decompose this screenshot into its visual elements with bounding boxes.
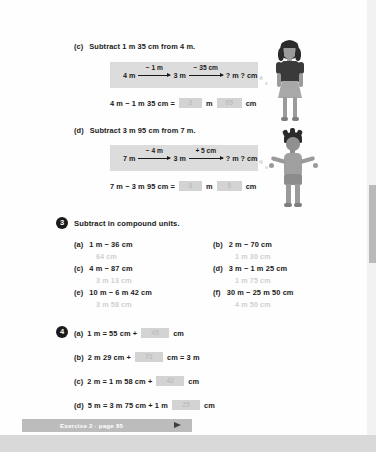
item-problem: 2 m − 70 cm: [229, 240, 272, 249]
item-letter: (c): [74, 264, 83, 273]
part-d-middle-value: 3 m: [173, 154, 185, 163]
section-3-item-d: (d) 3 m − 1 m 25 cm: [213, 264, 287, 273]
section-3-item-f: (f) 30 m − 25 m 50 cm: [213, 288, 294, 297]
page-edge-tab: [369, 185, 376, 263]
part-c-start-value: 4 m: [123, 71, 135, 80]
part-d-equation: 7 m − 3 m 95 cm = 3 m 5 cm: [110, 181, 257, 191]
part-d-answer-metres[interactable]: 3: [179, 181, 202, 191]
part-c-answer-cm[interactable]: 65: [217, 98, 242, 108]
section-4-answer-c[interactable]: 42: [156, 376, 184, 386]
section-3-item-b: (b) 2 m − 70 cm: [213, 240, 272, 249]
item-expression-after: cm: [188, 377, 199, 386]
item-problem: 4 m − 87 cm: [89, 264, 132, 273]
section-3-number: 3: [56, 217, 68, 229]
part-d-letter: (d): [74, 126, 84, 135]
part-d-answer-cm[interactable]: 5: [217, 181, 242, 191]
section-3-answer-b[interactable]: 1 m 30 cm: [235, 252, 271, 261]
item-expression-after: cm: [204, 401, 215, 410]
part-c-middle-value: 3 m: [173, 71, 185, 80]
section-4-number: 4: [56, 326, 68, 338]
item-letter: (a): [74, 240, 83, 249]
item-expression-before: 2 m 29 cm +: [88, 353, 131, 362]
item-problem: 10 m − 6 m 42 cm: [89, 288, 152, 297]
exercise-banner: Exercise 2 · page 85: [22, 419, 192, 432]
part-c-equation-prefix: 4 m − 1 m 35 cm =: [110, 99, 175, 108]
part-c-prompt: Subtract 1 m 35 cm from 4 m.: [89, 42, 195, 51]
item-expression-before: 5 m = 3 m 75 cm + 1 m: [88, 401, 168, 410]
part-d-equation-prefix: 7 m − 3 m 95 cm =: [110, 182, 175, 191]
item-letter: (f): [213, 288, 221, 297]
section-3-title: Subtract in compound units.: [74, 219, 180, 228]
item-problem: 30 m − 25 m 50 cm: [227, 288, 294, 297]
exercise-banner-label: Exercise 2 · page 85: [60, 422, 123, 429]
section-4-item-b: (b) 2 m 29 cm + 71 cm = 3 m: [74, 352, 200, 362]
part-c-unit-cm: cm: [246, 99, 257, 108]
page-bottom-strip: [0, 435, 376, 452]
section-4-item-d: (d) 5 m = 3 m 75 cm + 1 m 25 cm: [74, 400, 215, 410]
section-3-answer-e[interactable]: 3 m 58 cm: [96, 300, 132, 309]
part-d-unit-metres: m: [206, 182, 213, 191]
item-expression-before: 1 m = 55 cm +: [87, 329, 137, 338]
item-expression-before: 2 m = 1 m 58 cm +: [87, 377, 152, 386]
item-letter: (c): [74, 377, 83, 386]
part-d-prompt: Subtract 3 m 95 cm from 7 m.: [90, 126, 196, 135]
part-c-step1-arrow: − 1 m: [138, 70, 170, 80]
item-letter: (b): [74, 353, 84, 362]
section-3-answer-d[interactable]: 1 m 75 cm: [235, 276, 271, 285]
part-d-heading: (d) Subtract 3 m 95 cm from 7 m.: [74, 126, 196, 135]
item-letter: (d): [74, 401, 84, 410]
item-expression-after: cm: [173, 329, 184, 338]
item-letter: (a): [74, 329, 83, 338]
part-c-numberline: 4 m − 1 m 3 m − 35 cm ? m ? cm: [110, 62, 258, 88]
section-3-answer-a[interactable]: 64 cm: [96, 252, 117, 261]
item-letter: (d): [213, 264, 223, 273]
section-4-answer-a[interactable]: 45: [141, 328, 169, 338]
section-3-item-a: (a) 1 m − 36 cm: [74, 240, 133, 249]
girl-illustration: [268, 40, 312, 122]
part-c-letter: (c): [74, 42, 83, 51]
item-problem: 3 m − 1 m 25 cm: [229, 264, 287, 273]
part-d-step2-arrow: + 5 cm: [189, 153, 223, 163]
part-c-step2-arrow: − 35 cm: [189, 70, 223, 80]
section-4-answer-d[interactable]: 25: [172, 400, 200, 410]
section-4-item-a: (a) 1 m = 55 cm + 45 cm: [74, 328, 184, 338]
part-d-end-value: ? m ? cm: [226, 154, 258, 163]
part-c-equation: 4 m − 1 m 35 cm = 2 m 65 cm: [110, 98, 257, 108]
boy-illustration: [268, 130, 320, 208]
part-c-answer-metres[interactable]: 2: [179, 98, 202, 108]
item-letter: (e): [74, 288, 83, 297]
sparkle-icon: [265, 166, 268, 169]
part-c-heading: (c) Subtract 1 m 35 cm from 4 m.: [74, 42, 195, 51]
item-problem: 1 m − 36 cm: [89, 240, 132, 249]
sparkle-icon: [259, 76, 263, 80]
section-3-item-e: (e) 10 m − 6 m 42 cm: [74, 288, 152, 297]
part-c-end-value: ? m ? cm: [226, 71, 258, 80]
section-3-answer-c[interactable]: 3 m 13 cm: [96, 276, 132, 285]
item-letter: (b): [213, 240, 223, 249]
section-3-item-c: (c) 4 m − 87 cm: [74, 264, 133, 273]
section-4-item-c: (c) 2 m = 1 m 58 cm + 42 cm: [74, 376, 199, 386]
section-4-answer-b[interactable]: 71: [135, 352, 163, 362]
part-d-unit-cm: cm: [246, 182, 257, 191]
part-c-unit-metres: m: [206, 99, 213, 108]
part-d-start-value: 7 m: [123, 154, 135, 163]
sparkle-icon: [265, 82, 268, 85]
sparkle-icon: [259, 160, 263, 164]
item-expression-after: cm = 3 m: [167, 353, 200, 362]
part-d-step1-arrow: − 4 m: [138, 153, 170, 163]
exercise-banner-arrow-tip-icon: [174, 422, 181, 428]
workbook-page: (c) Subtract 1 m 35 cm from 4 m. 4 m − 1…: [0, 0, 376, 452]
section-3-answer-f[interactable]: 4 m 50 cm: [235, 300, 271, 309]
part-d-numberline: 7 m − 4 m 3 m + 5 cm ? m ? cm: [110, 145, 258, 171]
